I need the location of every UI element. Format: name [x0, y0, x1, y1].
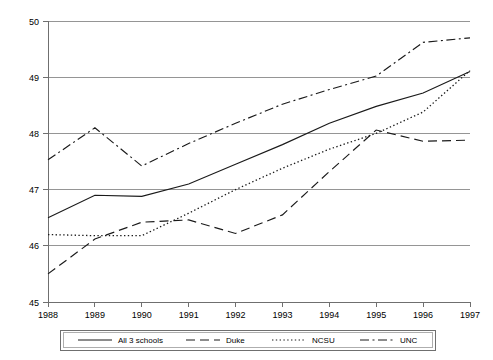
x-tick-label: 1997 — [460, 310, 480, 320]
x-tick-label: 1990 — [132, 310, 152, 320]
y-tick-label: 45 — [29, 298, 39, 308]
x-tick-label: 1995 — [366, 310, 386, 320]
y-tick-label: 49 — [29, 73, 39, 83]
x-tick-label: 1991 — [179, 310, 199, 320]
y-tick-label: 46 — [29, 241, 39, 251]
legend-label-duke: Duke — [226, 336, 245, 345]
legend-label-ncsu: NCSU — [312, 336, 335, 345]
x-tick-label: 1992 — [226, 310, 246, 320]
x-tick-label: 1988 — [38, 310, 58, 320]
x-tick-label: 1994 — [319, 310, 339, 320]
y-tick-label: 50 — [29, 17, 39, 27]
x-tick-label: 1993 — [272, 310, 292, 320]
legend-label-all-3-schools: All 3 schools — [118, 336, 163, 345]
line-chart: 454647484950 198819891990199119921993199… — [0, 0, 493, 360]
chart-background — [0, 0, 493, 360]
y-tick-label: 47 — [29, 185, 39, 195]
legend-label-unc: UNC — [400, 336, 418, 345]
x-tick-label: 1989 — [85, 310, 105, 320]
y-tick-label: 48 — [29, 129, 39, 139]
chart-svg: 454647484950 198819891990199119921993199… — [0, 0, 493, 360]
x-tick-label: 1996 — [413, 310, 433, 320]
